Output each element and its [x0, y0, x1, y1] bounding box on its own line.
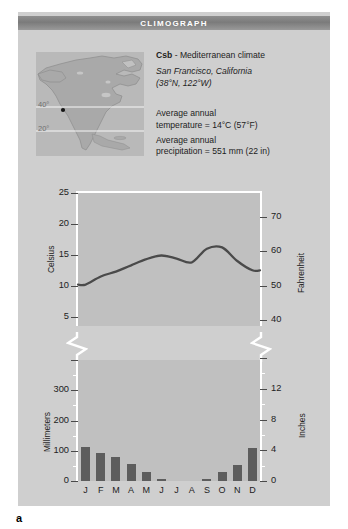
precip-tick-mm-250 [73, 405, 78, 406]
temperature-plot-area [78, 193, 260, 326]
temp-frame-right [260, 191, 262, 326]
temp-tick-f-60 [260, 251, 267, 252]
temp-tick-c-5 [71, 317, 78, 318]
precip-ticklabel-in-8: 8 [271, 414, 276, 424]
month-label-J: J [170, 485, 184, 495]
precip-tick-mm-200 [71, 421, 78, 422]
temp-ticklabel-c-25: 25 [51, 187, 69, 197]
temp-ticklabel-c-20: 20 [51, 218, 69, 228]
precip-bar-O [218, 472, 227, 481]
precip-tick-in-4 [260, 450, 267, 451]
temp-frame-top [76, 191, 262, 193]
temp-tick-f-70 [260, 217, 267, 218]
precip-frame-right [260, 360, 262, 482]
temp-frame-left [76, 191, 78, 326]
temp-ticklabel-f-60: 60 [271, 245, 281, 255]
temp-ticklabel-f-40: 40 [271, 314, 281, 324]
precip-tick-mm-350 [73, 375, 78, 376]
climograph-figure: CLIMOGRAPH 40° 20° Csb - Mediter [0, 0, 348, 529]
precip-bar-J [81, 447, 90, 481]
month-label-S: S [200, 485, 214, 495]
month-label-A: A [185, 485, 199, 495]
precip-bar-F [96, 453, 105, 481]
month-label-N: N [230, 485, 244, 495]
precip-tick-in-14 [260, 373, 265, 374]
figure-letter: a [16, 512, 22, 524]
month-label-O: O [215, 485, 229, 495]
temp-ticklabel-c-5: 5 [51, 311, 69, 321]
precip-bar-D [248, 448, 257, 481]
precip-tick-mm-150 [73, 436, 78, 437]
precip-ticklabel-mm-0: 0 [47, 475, 69, 485]
precip-bar-N [233, 465, 242, 481]
temp-ticklabel-c-10: 10 [51, 280, 69, 290]
precip-bar-M [142, 472, 151, 481]
month-label-J: J [79, 485, 93, 495]
precip-ticklabel-in-12: 12 [271, 383, 281, 393]
temp-tick-f-40 [260, 320, 267, 321]
month-label-J: J [154, 485, 168, 495]
temp-tick-c-15 [71, 255, 78, 256]
precip-tick-in-0 [260, 481, 267, 482]
precip-tick-mm-100 [71, 451, 78, 452]
precip-tick-in-2 [260, 466, 265, 467]
precip-ticklabel-in-0: 0 [271, 475, 276, 485]
precip-tick-in-6 [260, 435, 265, 436]
precip-tick-in-8 [260, 420, 267, 421]
precip-ticklabel-mm-300: 300 [47, 384, 69, 394]
month-label-D: D [245, 485, 259, 495]
precip-tick-mm-50 [73, 466, 78, 467]
temp-tick-c-20 [71, 224, 78, 225]
month-label-M: M [109, 485, 123, 495]
precipitation-plot-area [78, 360, 260, 481]
precip-ticklabel-in-4: 4 [271, 444, 276, 454]
precip-tick-mm-400 [71, 360, 78, 361]
precip-tick-in-16 [260, 358, 267, 359]
precip-tick-in-12 [260, 389, 267, 390]
precip-bar-M [111, 457, 120, 481]
precipitation-y2-axis-label: Inches [297, 413, 307, 438]
climograph-charts: 51015202540506070CelsiusFahrenheit010020… [0, 0, 348, 529]
precip-tick-mm-0 [71, 481, 78, 482]
temp-ticklabel-f-50: 50 [271, 280, 281, 290]
temp-tick-f-50 [260, 286, 267, 287]
temperature-y-axis-label: Celsius [46, 246, 56, 273]
month-label-A: A [124, 485, 138, 495]
precipitation-y-axis-label: Millimeters [42, 412, 52, 452]
precip-bar-J [157, 479, 166, 481]
month-label-F: F [94, 485, 108, 495]
precip-tick-mm-300 [71, 390, 78, 391]
precip-tick-in-10 [260, 404, 265, 405]
left-axis-break-icon [66, 332, 88, 362]
temp-ticklabel-f-70: 70 [271, 211, 281, 221]
temp-tick-c-25 [71, 193, 78, 194]
month-label-M: M [139, 485, 153, 495]
temp-tick-c-10 [71, 286, 78, 287]
precip-bar-S [202, 479, 211, 481]
temperature-y2-axis-label: Fahrenheit [296, 253, 306, 293]
precip-bar-A [127, 464, 136, 481]
